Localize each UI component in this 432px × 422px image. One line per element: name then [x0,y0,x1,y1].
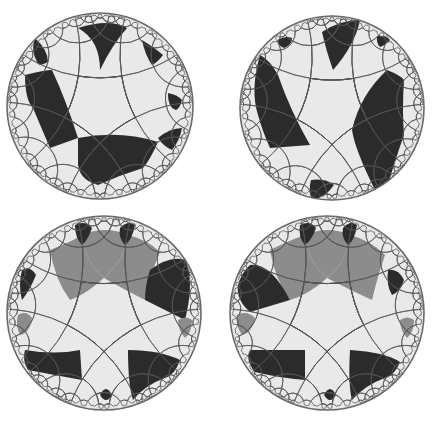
hyperbolic-tilings-svg [0,0,432,422]
poincare-disk-bottom-left [7,216,201,410]
tiling-figure [0,0,432,422]
poincare-disk-top-right [240,16,424,200]
poincare-disk-top-left [7,13,193,199]
poincare-disk-bottom-right [230,216,424,410]
